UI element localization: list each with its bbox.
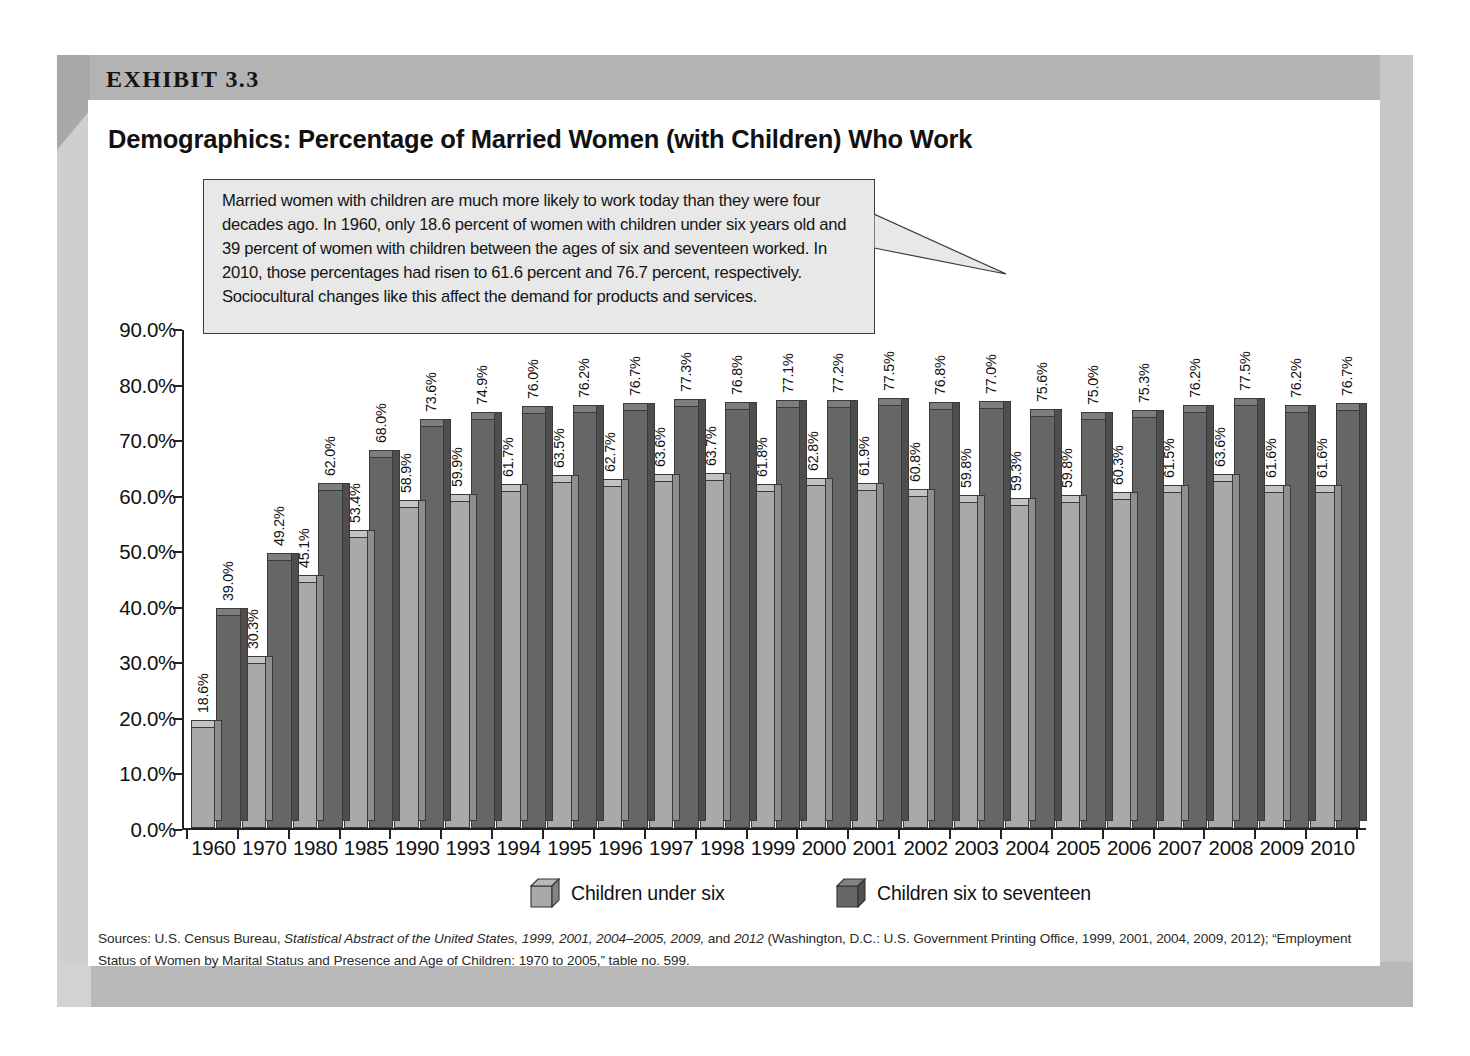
bar-top: [1336, 403, 1360, 410]
bar-side: [1335, 485, 1342, 821]
bar-value-label: 76.2%: [1288, 359, 1304, 399]
callout-box: Married women with children are much mor…: [203, 179, 875, 334]
legend-label: Children under six: [571, 882, 725, 905]
x-axis-tick-label: 1999: [751, 836, 795, 860]
bar-value-label: 60.3%: [1110, 445, 1126, 485]
bar-value-label: 59.8%: [958, 448, 974, 488]
bar-value-label: 76.8%: [932, 355, 948, 395]
bar-side: [978, 495, 985, 821]
sources-italic-1: Statistical Abstract of the United State…: [284, 931, 704, 946]
bar-value-label: 75.0%: [1085, 365, 1101, 405]
bar-value-label: 58.9%: [398, 453, 414, 493]
bar-value-label: 77.1%: [780, 354, 796, 394]
bar-value-label: 76.8%: [729, 355, 745, 395]
bar-side: [673, 474, 680, 821]
bar-side: [1029, 498, 1036, 822]
bar-value-label: 75.3%: [1136, 364, 1152, 404]
bar-side: [266, 656, 273, 821]
bar-top: [929, 402, 953, 409]
bar-top: [674, 399, 698, 406]
legend-item: Children under six: [530, 878, 725, 908]
x-axis: 1960197019801985199019931994199519961997…: [182, 836, 1366, 868]
bar: [191, 720, 215, 828]
frame-left-band: [57, 55, 90, 1007]
bar-value-label: 59.8%: [1059, 448, 1075, 488]
y-axis-tick-label: 20.0%: [119, 707, 176, 731]
bar-side: [470, 494, 477, 821]
y-axis-tick-label: 70.0%: [119, 429, 176, 453]
x-axis-tick-label: 1980: [293, 836, 337, 860]
bar-value-label: 68.0%: [373, 403, 389, 443]
y-axis-tick: [173, 329, 182, 331]
bar-side: [622, 479, 629, 821]
x-axis-tick-label: 1997: [649, 836, 693, 860]
bar-top: [725, 402, 749, 409]
bar-top: [827, 400, 851, 407]
bar-value-label: 61.6%: [1314, 438, 1330, 478]
y-axis-tick-label: 30.0%: [119, 651, 176, 675]
x-axis-tick-label: 1995: [547, 836, 591, 860]
x-axis-tick-label: 2010: [1310, 836, 1354, 860]
bar-value-label: 73.6%: [423, 373, 439, 413]
bars-layer: 18.6%39.0%30.3%49.2%45.1%62.0%53.4%68.0%…: [184, 330, 1366, 828]
y-axis: 0.0%10.0%20.0%30.0%40.0%50.0%60.0%70.0%8…: [96, 330, 176, 830]
bar-value-label: 77.5%: [1237, 352, 1253, 392]
y-axis-tick: [173, 607, 182, 609]
exhibit-label: EXHIBIT 3.3: [106, 66, 260, 93]
exhibit-container: EXHIBIT 3.3 Demographics: Percentage of …: [0, 0, 1470, 1056]
sources-prefix: Sources: U.S. Census Bureau,: [98, 931, 284, 946]
bar-top: [573, 405, 597, 412]
bar-top: [1030, 409, 1054, 416]
bar-value-label: 77.2%: [830, 353, 846, 393]
bar-value-label: 59.9%: [449, 448, 465, 488]
bar-value-label: 63.7%: [703, 427, 719, 467]
sources-italic-2: 2012: [734, 931, 764, 946]
x-axis-tick-label: 1998: [700, 836, 744, 860]
y-axis-tick-label: 90.0%: [119, 318, 176, 342]
bar-value-label: 63.6%: [1212, 427, 1228, 467]
bar-side: [826, 478, 833, 821]
bar-side: [1207, 405, 1214, 821]
bar-top: [1234, 398, 1258, 405]
bar-face: [191, 727, 215, 828]
bar-side: [775, 484, 782, 821]
y-axis-tick: [173, 718, 182, 720]
bar-value-label: 76.2%: [1187, 359, 1203, 399]
bar-value-label: 49.2%: [271, 506, 287, 546]
bar-value-label: 76.7%: [627, 356, 643, 396]
y-axis-tick-label: 80.0%: [119, 374, 176, 398]
bar-value-label: 61.5%: [1161, 439, 1177, 479]
x-axis-tick-label: 1996: [598, 836, 642, 860]
bar-value-label: 77.3%: [678, 353, 694, 393]
frame-bottom-left-bevel: [57, 962, 91, 1007]
legend-label: Children six to seventeen: [877, 882, 1091, 905]
bar-side: [724, 473, 731, 821]
bar-value-label: 39.0%: [220, 562, 236, 602]
x-axis-tick-label: 1990: [395, 836, 439, 860]
y-axis-tick-label: 0.0%: [130, 818, 176, 842]
bar-side: [1080, 495, 1087, 821]
y-axis-tick: [173, 440, 182, 442]
y-axis-tick-label: 50.0%: [119, 540, 176, 564]
bar-top: [878, 398, 902, 405]
bar-top: [623, 403, 647, 410]
bar-side: [1233, 474, 1240, 821]
bar-value-label: 75.6%: [1034, 362, 1050, 402]
bar-top: [1183, 405, 1207, 412]
x-axis-tick-label: 2000: [802, 836, 846, 860]
bar-top: [318, 483, 342, 490]
bar-top: [420, 419, 444, 426]
bar-side: [1182, 485, 1189, 821]
bar-value-label: 76.2%: [576, 359, 592, 399]
bar-side: [572, 475, 579, 821]
bar-value-label: 77.5%: [881, 352, 897, 392]
legend-cube-icon: [530, 878, 560, 908]
bar-value-label: 18.6%: [195, 673, 211, 713]
x-axis-line: [182, 828, 1366, 830]
bar-side: [1284, 485, 1291, 821]
x-axis-tick-label: 2001: [853, 836, 897, 860]
chart-area: 0.0%10.0%20.0%30.0%40.0%50.0%60.0%70.0%8…: [96, 330, 1376, 850]
bar-side: [343, 483, 350, 821]
bar-value-label: 59.3%: [1008, 451, 1024, 491]
bar-value-label: 45.1%: [296, 528, 312, 568]
